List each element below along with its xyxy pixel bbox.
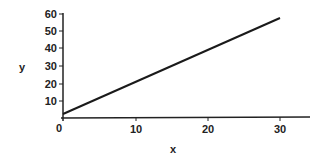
y-axis-label: y [19,61,26,73]
ytick-label-40: 40 [45,42,57,54]
xtick-label-20: 20 [202,123,214,135]
line-chart: 60 50 40 30 20 10 0 10 20 30 x y [0,0,324,163]
x-axis [61,117,310,118]
origin-label: 0 [56,122,62,134]
xtick-label-10: 10 [130,123,142,135]
ytick-label-20: 20 [45,78,57,90]
x-axis-label: x [170,143,177,155]
ytick-label-60: 60 [45,8,57,20]
ytick-label-50: 50 [45,25,57,37]
ytick-label-30: 30 [45,60,57,72]
ytick-label-10: 10 [45,95,57,107]
xtick-label-30: 30 [274,123,286,135]
data-line [63,18,280,114]
